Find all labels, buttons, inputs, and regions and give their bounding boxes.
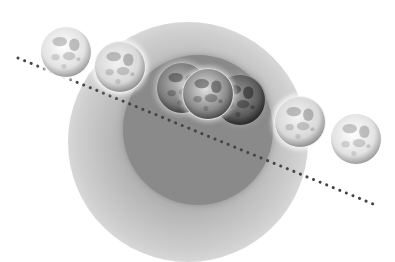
moon-penumbral-icon xyxy=(94,41,146,93)
moon-total-icon xyxy=(182,68,234,120)
moon-full-icon xyxy=(330,113,382,165)
moon-penumbral-icon xyxy=(274,96,326,148)
moon-full-icon xyxy=(40,26,92,78)
